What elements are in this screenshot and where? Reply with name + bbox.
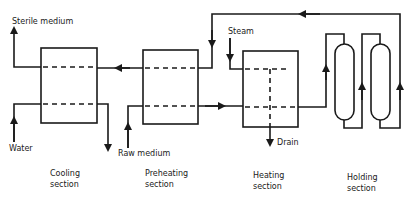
- heating-section-label: Heating section: [253, 170, 284, 192]
- raw-medium-line: [128, 106, 143, 148]
- raw-medium-label: Raw medium: [118, 149, 170, 159]
- cooling-section-label: Cooling section: [50, 168, 80, 190]
- holding-tube-1: [335, 44, 354, 120]
- preheating-section-label: Preheating section: [145, 168, 188, 190]
- preheating-section-box: [143, 50, 198, 124]
- sterile-medium-label: Sterile medium: [12, 17, 73, 27]
- holding-section-label: Holding section: [347, 172, 378, 194]
- water-label: Water: [9, 144, 33, 154]
- water-line: [14, 104, 41, 142]
- sterile-medium-line: [14, 30, 41, 67]
- return-line: [198, 14, 400, 92]
- holding-tube-2: [371, 44, 390, 120]
- steam-label: Steam: [228, 27, 254, 37]
- steam-line: [230, 38, 243, 69]
- drain-label: Drain: [277, 138, 299, 148]
- cooling-section-box: [41, 48, 97, 123]
